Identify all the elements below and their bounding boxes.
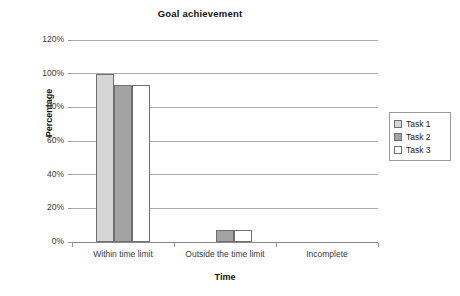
gridline — [72, 40, 378, 41]
chart-title: Goal achievement — [0, 8, 400, 19]
y-axis-tick-label: 60% — [18, 135, 64, 145]
legend-label: Task 3 — [406, 145, 431, 155]
x-axis-tick — [72, 243, 73, 247]
legend-item[interactable]: Task 3 — [394, 143, 445, 156]
y-axis-tick-label: 100% — [18, 68, 64, 78]
gridline — [72, 73, 378, 74]
legend-swatch-icon — [394, 146, 402, 154]
y-axis-tick — [68, 73, 72, 74]
legend-swatch-icon — [394, 133, 402, 141]
x-axis-tick-label: Incomplete — [276, 249, 378, 259]
y-axis-tick — [68, 208, 72, 209]
bar — [114, 85, 132, 242]
y-axis-tick-label: 20% — [18, 202, 64, 212]
chart-legend: Task 1Task 2Task 3 — [389, 112, 451, 161]
plot-area — [72, 40, 378, 242]
y-axis-tick-label: 80% — [18, 101, 64, 111]
y-axis-tick — [68, 141, 72, 142]
bar — [234, 230, 252, 242]
bar — [216, 230, 234, 242]
x-axis-tick — [174, 243, 175, 247]
bar — [132, 85, 150, 242]
y-axis-tick — [68, 107, 72, 108]
legend-item[interactable]: Task 2 — [394, 130, 445, 143]
x-axis-tick — [378, 243, 379, 247]
y-axis-tick-label: 120% — [18, 34, 64, 44]
y-axis-tick-label: 0% — [18, 236, 64, 246]
legend-label: Task 2 — [406, 132, 431, 142]
legend-item[interactable]: Task 1 — [394, 117, 445, 130]
y-axis-tick — [68, 40, 72, 41]
x-axis-title: Time — [72, 272, 378, 282]
legend-label: Task 1 — [406, 119, 431, 129]
x-axis-tick — [276, 243, 277, 247]
y-axis-tick-label: 40% — [18, 169, 64, 179]
legend-swatch-icon — [394, 120, 402, 128]
x-axis-tick-label: Within time limit — [72, 249, 174, 259]
bar-chart: Goal achievement Percentage 0%20%40%60%8… — [0, 0, 460, 296]
x-axis-tick-label: Outside the time limit — [174, 249, 276, 259]
bar — [96, 74, 114, 242]
y-axis-tick — [68, 174, 72, 175]
